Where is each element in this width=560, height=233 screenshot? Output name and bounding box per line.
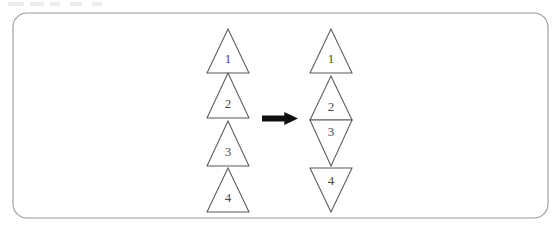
triangle-label: 2 [328, 99, 335, 114]
scan-speck [92, 2, 102, 6]
triangle-label: 2 [225, 96, 232, 111]
rounded-rectangle-panel [13, 13, 548, 218]
triangle-label: 4 [328, 173, 335, 188]
triangle-label: 3 [328, 124, 335, 139]
triangle-label: 1 [328, 51, 335, 66]
scan-artifact-group [8, 2, 102, 6]
scan-speck [50, 2, 60, 6]
figure-canvas: 1234 1234 [0, 0, 560, 233]
triangle-label: 4 [225, 190, 232, 205]
scan-speck [70, 2, 82, 6]
triangle-label: 3 [225, 144, 232, 159]
scan-speck [30, 2, 44, 6]
figure-container: 1234 1234 [0, 0, 560, 233]
scan-speck [8, 2, 24, 6]
triangle-label: 1 [225, 51, 232, 66]
